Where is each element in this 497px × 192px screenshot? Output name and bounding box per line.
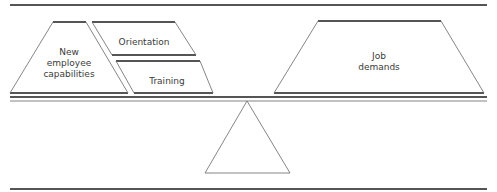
job-demands-label-line1: Job — [371, 51, 386, 61]
training-label: Training — [148, 76, 185, 86]
job-demands-label-line2: demands — [358, 62, 400, 72]
capabilities-label-line3: capabilities — [43, 69, 94, 79]
balance-diagram: New employee capabilities Orientation Tr… — [0, 0, 497, 192]
job-demands-block: Job demands — [274, 21, 484, 93]
balance-beam — [10, 97, 487, 101]
fulcrum-triangle — [205, 101, 290, 173]
orientation-block: Orientation — [92, 22, 196, 55]
capabilities-label-line2: employee — [47, 58, 92, 68]
training-block: Training — [116, 61, 213, 93]
capabilities-block: New employee capabilities — [10, 22, 128, 93]
capabilities-label-line1: New — [59, 47, 79, 57]
orientation-label: Orientation — [119, 37, 170, 47]
